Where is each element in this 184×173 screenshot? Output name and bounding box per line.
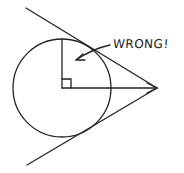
tangent-diagram [0,0,184,173]
pointer-arrow [76,45,110,60]
right-angle-marker [62,79,71,88]
diagram-canvas: WRONG! [0,0,184,173]
wrong-label: WRONG! [113,37,170,51]
lower-line [27,88,157,165]
